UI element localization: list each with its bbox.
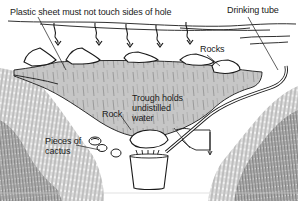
rock-1	[24, 48, 56, 66]
label-trough: Trough holds undistilled water	[132, 93, 183, 123]
rain-arrows	[54, 22, 193, 47]
label-cactus: Pieces of cactus	[45, 136, 81, 156]
label-plastic-sheet: Plastic sheet must not touch sides of ho…	[10, 7, 171, 17]
arrow-2	[95, 23, 99, 43]
rock-4	[180, 54, 214, 65]
arrow-3	[126, 24, 130, 45]
collection-bucket	[130, 156, 168, 190]
solar-still-diagram: Plastic sheet must not touch sides of ho…	[0, 0, 298, 201]
ground-surface-line	[8, 21, 296, 44]
arrow-4	[156, 25, 160, 45]
rock-2	[66, 48, 100, 64]
label-drinking-tube: Drinking tube	[227, 5, 279, 15]
label-rock: Rock	[102, 109, 122, 119]
label-rocks: Rocks	[200, 44, 225, 54]
rock-3	[124, 52, 158, 62]
arrow-1	[54, 23, 58, 43]
rock-5	[212, 60, 240, 73]
arrow-5	[186, 22, 190, 42]
